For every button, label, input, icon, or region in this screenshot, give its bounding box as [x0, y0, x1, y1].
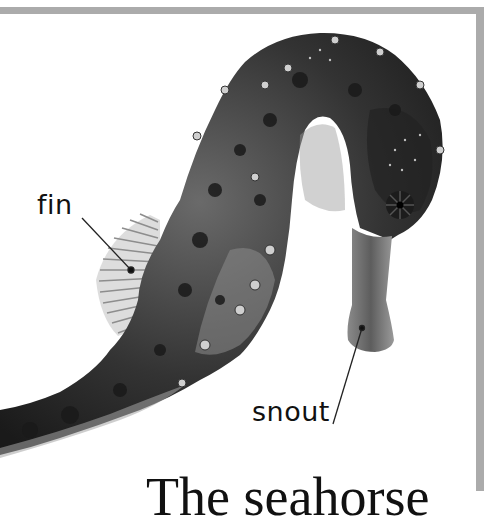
snout-label: snout	[252, 398, 330, 425]
seahorse-eye	[386, 191, 414, 219]
fin-label: fin	[37, 191, 73, 218]
seahorse-snout	[348, 228, 395, 352]
page-caption: The seahorse	[146, 470, 429, 520]
snout-leader-line	[333, 328, 362, 424]
